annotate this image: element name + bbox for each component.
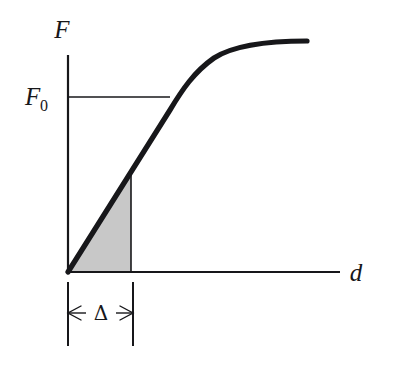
f0-label-subscript: 0 (40, 97, 48, 114)
dimension-label: Δ (94, 301, 108, 325)
y-axis-label: F (53, 16, 70, 43)
x-axis-label: d (350, 259, 363, 286)
f0-label-base: F (24, 83, 41, 110)
force-displacement-figure: F F 0 d Δ (0, 0, 403, 367)
figure-canvas: F F 0 d Δ (0, 0, 403, 367)
